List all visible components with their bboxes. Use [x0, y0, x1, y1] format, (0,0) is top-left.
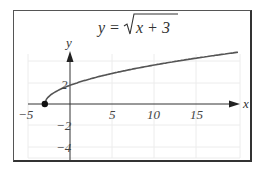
y-tick-label: −2 — [56, 118, 72, 133]
sqrt-curve — [45, 52, 238, 104]
y-axis-label: y — [64, 35, 72, 50]
x-axis-arrow-icon — [229, 101, 240, 108]
x-axis-label: x — [242, 96, 249, 111]
chart-title: y = x + 3 — [96, 14, 178, 37]
title-lhs: y = — [96, 19, 120, 37]
x-tick-label: −5 — [18, 107, 34, 122]
y-tick-label: 2 — [61, 77, 68, 92]
y-tick-label: −4 — [56, 140, 72, 155]
chart-svg: y = x + 3 y x −5 5 10 15 2 −2 −4 — [0, 0, 262, 174]
y-axis-arrow-icon — [67, 51, 74, 62]
x-tick-label: 10 — [147, 107, 161, 122]
x-tick-label: 5 — [109, 107, 116, 122]
title-radicand: x + 3 — [135, 19, 170, 36]
x-tick-label: 15 — [190, 107, 204, 122]
x-axis — [28, 101, 240, 108]
start-point-dot — [42, 101, 48, 107]
